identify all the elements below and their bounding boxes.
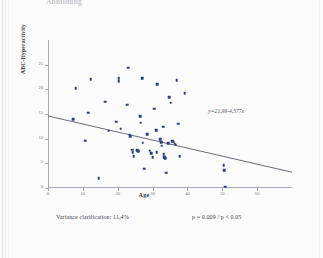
data-point: [164, 157, 167, 160]
data-point: [132, 155, 135, 158]
scan-edge-line: [5, 0, 6, 258]
x-axis-title: Age: [22, 191, 266, 198]
data-point: [224, 185, 227, 188]
p-value-text: p = 0.009 / p < 0.05: [192, 214, 241, 220]
top-text-fragment: Abbildung: [46, 0, 82, 6]
y-axis-title: ABC-Hyperactivity: [20, 24, 26, 74]
data-point: [89, 78, 92, 81]
data-point: [168, 96, 171, 99]
y-tick-label: 20: [38, 85, 43, 90]
regression-line: [48, 40, 292, 188]
plot-area: 0510152025 0102030405060 y=21,99-4,577x: [48, 40, 292, 188]
data-point: [72, 118, 75, 121]
data-point: [139, 115, 142, 118]
data-point: [75, 87, 78, 90]
y-tick-label: 25: [38, 61, 43, 66]
data-point: [117, 77, 120, 80]
data-point: [155, 129, 158, 132]
data-point: [174, 143, 177, 146]
data-point: [151, 156, 154, 159]
data-point: [143, 167, 146, 170]
data-point: [223, 169, 226, 172]
data-point: [107, 129, 110, 132]
data-point: [153, 107, 156, 110]
data-point: [183, 92, 186, 95]
data-point: [160, 144, 163, 147]
data-point: [175, 79, 178, 82]
regression-equation-label: y=21,99-4,577x: [208, 108, 244, 114]
data-point: [167, 142, 170, 145]
data-point: [131, 151, 134, 154]
data-point: [160, 141, 163, 144]
data-point: [165, 171, 168, 174]
data-point: [98, 177, 101, 180]
data-point: [156, 83, 159, 86]
data-point: [84, 139, 87, 142]
data-point: [129, 135, 132, 138]
variance-clarification-text: Variance clarification: 11,4%: [56, 214, 129, 220]
data-point: [139, 122, 142, 125]
data-point: [115, 121, 118, 124]
data-point: [222, 164, 225, 167]
data-point: [142, 141, 145, 144]
scan-edge-line-right: [319, 0, 320, 258]
data-point: [169, 101, 172, 104]
y-tick-label: 15: [38, 110, 43, 115]
data-point: [150, 152, 153, 155]
figure-page: Abbildung ABC-Hyperactivity 0510152025 0…: [0, 0, 323, 258]
data-point: [141, 77, 144, 80]
y-tick-label: 10: [38, 135, 43, 140]
data-point: [127, 66, 130, 69]
data-point: [119, 128, 122, 131]
data-point: [178, 155, 181, 158]
data-point: [126, 103, 129, 106]
data-point: [155, 151, 158, 154]
data-point: [177, 123, 180, 126]
scan-edge-line: [2, 0, 3, 258]
scan-edge-line: [8, 0, 9, 258]
footnote-row: Variance clarification: 11,4% p = 0.009 …: [22, 214, 308, 228]
data-point: [117, 80, 120, 83]
data-point: [137, 150, 140, 153]
data-point: [87, 111, 90, 114]
y-tick-label: 0: [41, 184, 43, 189]
data-point: [162, 126, 165, 129]
data-point: [146, 133, 149, 136]
data-point: [104, 100, 107, 103]
y-tick-label: 5: [41, 159, 43, 164]
scatter-chart: ABC-Hyperactivity 0510152025 01020304050…: [22, 28, 308, 200]
